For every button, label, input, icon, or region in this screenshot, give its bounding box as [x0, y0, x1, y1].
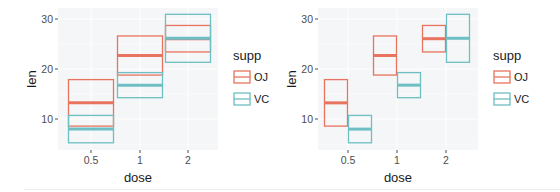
legend-item-VC: VC	[494, 93, 529, 105]
legend-title: supp	[233, 48, 261, 63]
legend-title: supp	[493, 48, 521, 63]
legend-label: VC	[514, 93, 529, 105]
crossbar-chart-dodged: 1020300.512doselensuppOJVC	[280, 0, 560, 192]
divider	[24, 189, 560, 190]
y-tick-label: 20	[301, 63, 313, 75]
x-tick-label: 0.5	[341, 154, 356, 166]
x-tick-label: 1	[394, 154, 400, 166]
legend-label: VC	[254, 93, 269, 105]
crossbar-chart-overlay: 1020300.512doselensuppOJVC	[0, 0, 280, 192]
x-axis-title: dose	[124, 170, 152, 185]
legend-item-OJ: OJ	[494, 71, 528, 83]
y-tick-label: 10	[41, 113, 53, 125]
y-tick-label: 10	[301, 113, 313, 125]
y-tick-label: 30	[301, 13, 313, 25]
x-axis-title: dose	[384, 170, 412, 185]
y-tick-label: 20	[41, 63, 53, 75]
y-tick-label: 30	[41, 13, 53, 25]
x-tick-label: 0.5	[84, 154, 99, 166]
chart-svg: 1020300.512doselensuppOJVC	[280, 0, 560, 192]
legend-item-VC: VC	[234, 93, 269, 105]
y-axis-title: len	[24, 70, 39, 87]
x-tick-label: 2	[185, 154, 191, 166]
x-tick-label: 1	[137, 154, 143, 166]
chart-svg: 1020300.512doselensuppOJVC	[0, 0, 280, 192]
y-axis-title: len	[284, 70, 299, 87]
legend-label: OJ	[514, 71, 528, 83]
legend-item-OJ: OJ	[234, 71, 268, 83]
x-tick-label: 2	[443, 154, 449, 166]
legend-label: OJ	[254, 71, 268, 83]
